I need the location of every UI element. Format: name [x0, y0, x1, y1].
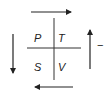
label-s: S: [34, 61, 42, 73]
label-p: P: [34, 32, 42, 44]
thermo-square-diagram: P T S V −: [0, 0, 109, 96]
label-v: V: [58, 61, 67, 73]
minus-sign: −: [97, 39, 103, 51]
label-t: T: [58, 32, 66, 44]
